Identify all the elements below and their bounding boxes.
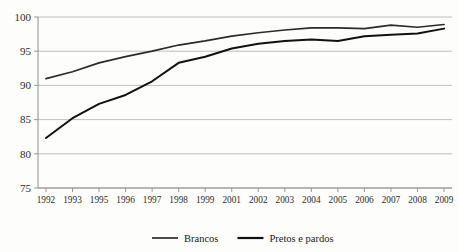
x-tick-label-1997: 1997	[143, 195, 162, 205]
x-tick-label-2004: 2004	[302, 195, 321, 205]
chart-container: 7580859095100 19921993199519961997199819…	[0, 0, 459, 252]
data-series-group	[46, 25, 444, 139]
y-tick-label-95: 95	[20, 45, 32, 57]
x-tick-label-2002: 2002	[249, 195, 268, 205]
x-ticks-group	[46, 188, 444, 192]
x-tick-label-1992: 1992	[37, 195, 56, 205]
y-tick-label-80: 80	[20, 148, 32, 160]
y-tick-labels-group: 7580859095100	[15, 11, 32, 194]
x-tick-label-1998: 1998	[169, 195, 188, 205]
x-tick-label-2007: 2007	[382, 195, 401, 205]
x-tick-label-2009: 2009	[435, 195, 454, 205]
x-tick-label-1996: 1996	[116, 195, 135, 205]
x-tick-label-2005: 2005	[329, 195, 348, 205]
series-line-pretos-e-pardos	[46, 29, 444, 138]
legend-label-pretos-e-pardos: Pretos e pardos	[269, 233, 333, 244]
y-tick-label-100: 100	[15, 11, 32, 23]
axes-group	[34, 17, 452, 188]
y-tick-label-75: 75	[20, 182, 32, 194]
legend-group: BrancosPretos e pardos	[152, 233, 334, 244]
x-tick-label-2006: 2006	[355, 195, 374, 205]
y-tick-label-85: 85	[20, 113, 32, 125]
x-tick-labels-group: 1992199319951996199719981999200120022003…	[37, 195, 454, 205]
legend-label-brancos: Brancos	[184, 233, 218, 244]
x-tick-label-2003: 2003	[276, 195, 295, 205]
x-tick-label-2008: 2008	[408, 195, 427, 205]
y-tick-label-90: 90	[20, 79, 32, 91]
x-tick-label-1993: 1993	[63, 195, 82, 205]
x-tick-label-1995: 1995	[90, 195, 109, 205]
line-chart: 7580859095100 19921993199519961997199819…	[0, 0, 459, 252]
x-tick-label-1999: 1999	[196, 195, 215, 205]
x-tick-label-2001: 2001	[222, 195, 241, 205]
